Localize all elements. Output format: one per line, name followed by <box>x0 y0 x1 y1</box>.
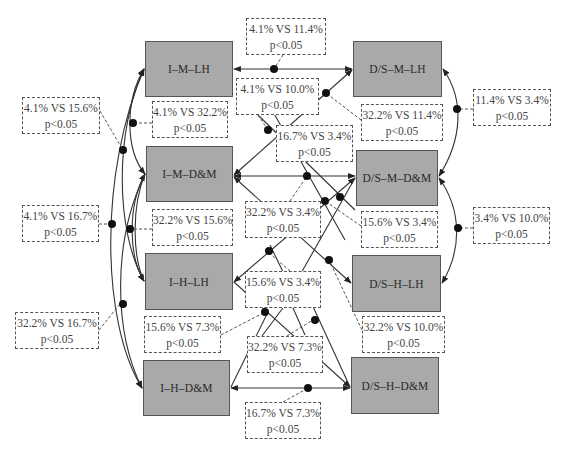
node-ds-h-lh: D/S–H–LH <box>352 255 441 312</box>
comparison-text: 32.2% VS 10.0% <box>363 319 444 335</box>
p-value: p<0.05 <box>246 290 320 306</box>
comparison-text: 32.2% VS 11.4% <box>362 107 442 123</box>
comparison-label: 15.6% VS 3.4%p<0.05 <box>245 271 321 308</box>
p-value: p<0.05 <box>23 224 98 240</box>
arc-dsmdm-dshlh <box>439 178 457 283</box>
node-i-h-lh: I–H–LH <box>145 253 233 310</box>
comparison-text: 16.7% VS 7.3% <box>246 405 320 421</box>
comparison-text: 4.1% VS 11.4% <box>247 21 325 37</box>
p-value: p<0.05 <box>153 120 227 136</box>
node-label: D/S–M–D&M <box>363 172 432 184</box>
node-label: I–M–LH <box>168 63 210 75</box>
comparison-label: 32.2% VS 7.3%p<0.05 <box>247 336 323 373</box>
node-i-m-lh: I–M–LH <box>145 41 233 97</box>
p-value: p<0.05 <box>237 97 318 113</box>
comparison-label: 4.1% VS 11.4%p<0.05 <box>246 18 326 55</box>
comparison-text: 32.2% VS 15.6% <box>153 212 232 228</box>
comparison-label: 4.1% VS 32.2%p<0.05 <box>152 101 228 138</box>
comparison-text: 15.6% VS 3.4% <box>362 214 437 230</box>
p-value: p<0.05 <box>474 108 550 124</box>
p-value: p<0.05 <box>246 421 320 437</box>
comparison-text: 4.1% VS 32.2% <box>153 104 227 120</box>
comparison-label: 32.2% VS 11.4%p<0.05 <box>361 104 443 141</box>
p-value: p<0.05 <box>145 335 220 351</box>
node-i-h-dm: I–H–D&M <box>143 360 230 416</box>
comparison-label: 16.7% VS 7.3%p<0.05 <box>245 402 321 439</box>
comparison-text: 15.6% VS 3.4% <box>246 274 320 290</box>
comparison-label: 3.4% VS 10.0%p<0.05 <box>473 207 550 244</box>
node-i-m-dm: I–M–D&M <box>146 146 233 202</box>
comparison-text: 32.2% VS 7.3% <box>248 339 322 355</box>
node-label: I–M–D&M <box>162 168 216 180</box>
comparison-label: 32.2% VS 10.0%p<0.05 <box>362 316 445 353</box>
p-value: p<0.05 <box>474 226 549 242</box>
p-value: p<0.05 <box>277 144 352 160</box>
comparison-label: 32.2% VS 15.6%p<0.05 <box>152 209 233 246</box>
comparison-label: 4.1% VS 15.6%p<0.05 <box>22 97 100 134</box>
node-label: I–H–D&M <box>160 382 213 394</box>
node-label: D/S–H–D&M <box>362 380 429 392</box>
p-value: p<0.05 <box>246 220 320 236</box>
p-value: p<0.05 <box>153 228 232 244</box>
comparison-text: 32.2% VS 3.4% <box>246 204 320 220</box>
comparison-text: 4.1% VS 16.7% <box>23 208 98 224</box>
comparison-text: 32.2% VS 16.7% <box>16 315 98 331</box>
node-label: D/S–M–LH <box>369 63 426 75</box>
node-ds-h-dm: D/S–H–D&M <box>351 357 439 414</box>
node-ds-m-lh: D/S–M–LH <box>353 41 442 97</box>
p-value: p<0.05 <box>362 123 442 139</box>
p-value: p<0.05 <box>247 37 325 53</box>
comparison-label: 32.2% VS 3.4%p<0.05 <box>245 201 321 238</box>
p-value: p<0.05 <box>16 331 98 347</box>
p-value: p<0.05 <box>23 116 99 132</box>
comparison-label: 15.6% VS 3.4%p<0.05 <box>361 211 438 248</box>
arc-imdm-ihdm <box>121 174 145 388</box>
comparison-text: 15.6% VS 7.3% <box>145 319 220 335</box>
comparison-label: 4.1% VS 10.0%p<0.05 <box>236 78 319 115</box>
comparison-label: 32.2% VS 16.7%p<0.05 <box>15 312 99 349</box>
p-value: p<0.05 <box>363 335 444 351</box>
comparison-label: 15.6% VS 7.3%p<0.05 <box>144 316 221 353</box>
comparison-text: 11.4% VS 3.4% <box>474 92 550 108</box>
comparison-text: 3.4% VS 10.0% <box>474 210 549 226</box>
comparison-text: 4.1% VS 15.6% <box>23 100 99 116</box>
node-ds-m-dm: D/S–M–D&M <box>356 150 438 206</box>
comparison-text: 16.7% VS 3.4% <box>277 128 352 144</box>
comparison-label: 4.1% VS 16.7%p<0.05 <box>22 205 99 242</box>
node-label: D/S–H–LH <box>369 278 424 290</box>
node-label: I–H–LH <box>169 276 209 288</box>
comparison-label: 11.4% VS 3.4%p<0.05 <box>473 89 551 126</box>
p-value: p<0.05 <box>248 355 322 371</box>
comparison-label: 16.7% VS 3.4%p<0.05 <box>276 125 353 162</box>
comparison-text: 4.1% VS 10.0% <box>237 81 318 97</box>
p-value: p<0.05 <box>362 230 437 246</box>
